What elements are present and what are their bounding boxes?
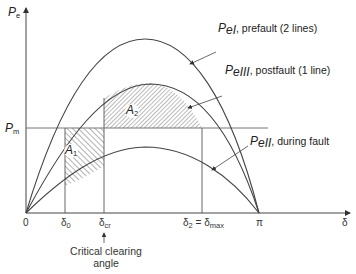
pm-label: Pm [5, 122, 19, 136]
leader-prefault [190, 52, 216, 64]
label-prefault: PeI, prefault (2 lines) [218, 22, 317, 36]
critical-clearing-line1: Critical clearing [64, 245, 148, 257]
label-postfault: PeIII, postfault (1 line) [225, 64, 330, 78]
tick-delta-cr: δcr [99, 218, 111, 230]
critical-clearing-line2: angle [64, 257, 148, 269]
y-axis-label: Pe [8, 6, 20, 20]
tick-delta0: δ0 [61, 218, 71, 230]
tick-origin: 0 [23, 218, 29, 228]
area-a2-hatch [104, 83, 202, 128]
area-a1-label: A1 [65, 144, 77, 158]
x-axis-label: δ [342, 218, 348, 228]
label-during-fault: PeII, during fault [250, 135, 329, 149]
tick-delta-max: δ2 = δmax [183, 218, 224, 230]
leader-postfault [188, 96, 222, 108]
area-a2-label: A2 [126, 104, 138, 118]
critical-clearing-note: Critical clearing angle [64, 245, 148, 269]
tick-pi: π [256, 218, 263, 228]
curve-during-fault [26, 147, 259, 213]
